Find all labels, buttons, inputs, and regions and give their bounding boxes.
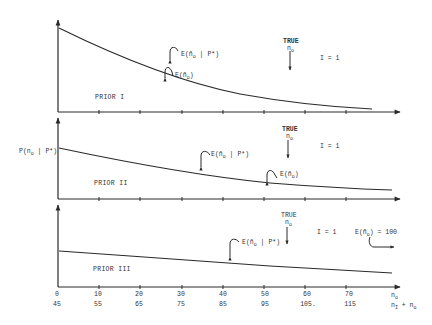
x-axis-label-n-o: no	[391, 292, 398, 302]
prior-3-label: PRIOR III	[93, 266, 131, 273]
i-label-2: I = 1	[320, 143, 340, 150]
x-tick-label: 50	[261, 291, 269, 298]
x-tick-label: 70	[345, 291, 353, 298]
true-label-3: TRUE	[281, 212, 297, 219]
x-axis-label-total: nI + no	[391, 302, 417, 312]
x-tick-label-total: 105.	[300, 301, 316, 308]
e-prior-label-2: E(n̂o)	[280, 171, 299, 181]
x-tick-label-total: 45	[53, 301, 61, 308]
prior-2-label: PRIOR II	[94, 180, 128, 187]
e-prior-label-1: E(n̂o)	[175, 72, 194, 82]
i-label-3: I = 1	[317, 229, 337, 236]
e-prior-arrow-1	[165, 68, 173, 79]
true-n-label-1: no	[287, 45, 294, 55]
x-tick-label-total: 115	[344, 301, 356, 308]
true-label-1: TRUE	[283, 38, 299, 45]
x-tick-label-total: 55	[94, 301, 102, 308]
true-n-label-3: no	[285, 219, 292, 229]
x-tick-label-total: 85	[219, 301, 227, 308]
e-post-label-3: E(n̂o | P*)	[242, 239, 280, 249]
true-n-label-2: no	[286, 133, 293, 143]
e-post-arrow-3	[230, 239, 239, 257]
chart-canvas	[0, 0, 432, 325]
prior-1-label: PRIOR I	[95, 94, 124, 101]
x-tick-label-total: 95	[261, 301, 269, 308]
e-prior-arrow-2	[267, 171, 277, 183]
e-post-arrow-2	[201, 151, 210, 167]
e-prior-label-3: E(n̂o) = 100	[355, 229, 397, 239]
x-tick-label: 60	[303, 291, 311, 298]
x-tick-label-total: 75	[177, 301, 185, 308]
x-tick-label-total: 65	[135, 301, 143, 308]
x-tick-label: 20	[135, 291, 143, 298]
x-tick-label: 40	[219, 291, 227, 298]
e-post-label-1: E(n̂o | P*)	[181, 51, 219, 61]
x-tick-label: 0	[55, 291, 59, 298]
y-axis-label: P(no | P*)	[19, 148, 57, 158]
panel-prior-3	[58, 205, 400, 289]
x-tick-label: 30	[177, 291, 185, 298]
e-post-label-2: E(n̂o | P*)	[211, 151, 249, 161]
true-label-2: TRUE	[282, 126, 298, 133]
i-label-1: I = 1	[320, 55, 340, 62]
x-tick-label: 10	[94, 291, 102, 298]
e-post-arrow-1	[170, 47, 178, 60]
